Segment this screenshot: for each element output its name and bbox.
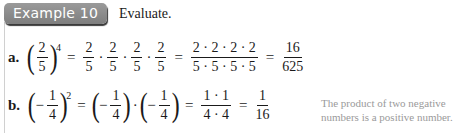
denominator: 4 <box>49 106 56 122</box>
left-paren: ( <box>140 88 148 122</box>
left-paren: ( <box>27 40 35 74</box>
left-paren: ( <box>91 88 99 122</box>
multiply-dot: · <box>98 49 103 66</box>
part-b-power: ( − 14 ) 2 <box>28 88 71 122</box>
equals-sign: = <box>67 49 75 66</box>
example-header: Example 10 Evaluate. <box>4 3 172 24</box>
equals-sign: = <box>174 49 182 66</box>
part-b: b. ( − 14 ) 2 = ( − 14 ) · ( − 14 ) = 1 … <box>8 88 272 122</box>
equals-sign: = <box>239 97 247 114</box>
numerator: 2 · 2 · 2 · 2 <box>191 41 258 58</box>
denominator: 625 <box>282 58 303 74</box>
part-a: a. ( 25 ) 4 = 25 · 25 · 25 · 25 = 2 · 2 … <box>8 40 305 74</box>
numerator: 16 <box>284 41 302 58</box>
result-fraction: 116 <box>256 89 270 122</box>
right-paren: ) <box>123 88 131 122</box>
part-a-label: a. <box>8 49 19 66</box>
fraction: 25 <box>107 41 118 74</box>
right-paren: ) <box>49 40 57 74</box>
fraction: 14 <box>110 89 121 122</box>
denominator: 5 <box>109 58 116 74</box>
denominator: 5 <box>85 58 92 74</box>
example-badge: Example 10 <box>4 3 107 24</box>
denominator: 5 <box>133 58 140 74</box>
equals-sign: = <box>185 97 193 114</box>
denominator: 5 <box>39 58 46 74</box>
numerator: 2 <box>83 41 94 58</box>
denominator: 5 <box>157 58 164 74</box>
numerator: 2 <box>155 41 166 58</box>
numerator: 2 <box>107 41 118 58</box>
product-fraction: 2 · 2 · 2 · 25 · 5 · 5 · 5 <box>191 41 258 74</box>
instruction-text: Evaluate. <box>119 6 171 22</box>
numerator: 1 <box>47 89 58 106</box>
fraction: 14 <box>47 89 58 122</box>
denominator: 4 · 4 <box>203 106 229 122</box>
left-paren: ( <box>28 88 36 122</box>
numerator: 1 <box>110 89 121 106</box>
minus-sign: − <box>99 97 107 114</box>
fraction: 25 <box>37 41 48 74</box>
fraction: 25 <box>83 41 94 74</box>
multiply-dot: · <box>146 49 151 66</box>
denominator: 4 <box>161 106 168 122</box>
denominator: 4 <box>112 106 119 122</box>
denominator: 5 · 5 · 5 · 5 <box>193 58 256 74</box>
product-fraction: 1 · 14 · 4 <box>201 89 231 122</box>
result-fraction: 16625 <box>282 41 303 74</box>
denominator: 16 <box>256 106 270 122</box>
equals-sign: = <box>77 97 85 114</box>
multiply-dot: · <box>133 97 138 114</box>
minus-sign: − <box>147 97 155 114</box>
left-margin-rule <box>4 22 5 133</box>
right-paren: ) <box>60 88 68 122</box>
numerator: 2 <box>131 41 142 58</box>
factor: ( − 14 ) <box>140 88 179 122</box>
numerator: 2 <box>37 41 48 58</box>
part-a-power: ( 25 ) 4 <box>27 40 61 74</box>
numerator: 1 <box>257 89 268 106</box>
margin-note: The product of two negative numbers is a… <box>321 96 463 124</box>
multiply-dot: · <box>122 49 127 66</box>
factor: ( − 14 ) <box>92 88 131 122</box>
equals-sign: = <box>266 49 274 66</box>
fraction: 25 <box>155 41 166 74</box>
numerator: 1 · 1 <box>201 89 231 106</box>
minus-sign: − <box>35 97 43 114</box>
fraction: 14 <box>159 89 170 122</box>
part-b-label: b. <box>8 97 20 114</box>
right-paren: ) <box>171 88 179 122</box>
fraction: 25 <box>131 41 142 74</box>
numerator: 1 <box>159 89 170 106</box>
